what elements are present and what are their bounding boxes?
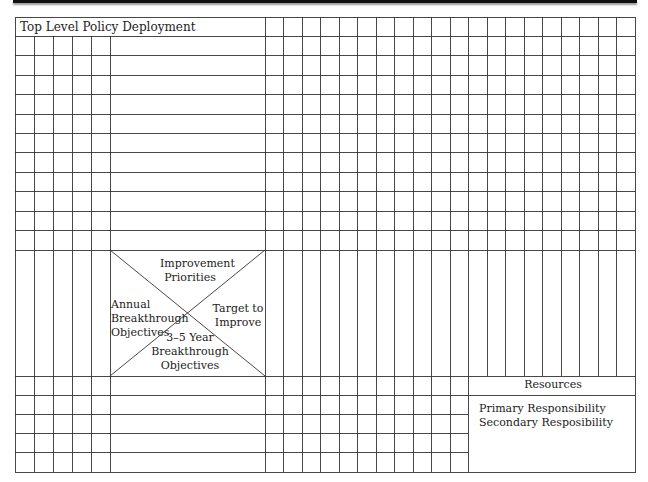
x-right-label: Target to Improve (208, 302, 268, 330)
x-top-line1: Improvement (160, 257, 220, 271)
x-top-line2: Priorities (160, 271, 220, 285)
x-right-line1: Target to (208, 302, 268, 316)
x-left-line1: Annual (111, 298, 189, 312)
x-bottom-line1: 3–5 Year (150, 331, 230, 345)
x-top-label: Improvement Priorities (160, 257, 220, 285)
legend-primary: Primary Responsibility (479, 402, 613, 416)
x-left-line2: Breakthrough (111, 312, 189, 326)
x-bottom-line2: Breakthrough (150, 345, 230, 359)
x-bottom-label: 3–5 Year Breakthrough Objectives (150, 331, 230, 373)
resources-header: Resources (470, 377, 636, 393)
x-right-line2: Improve (208, 316, 268, 330)
responsibility-legend: Primary Responsibility Secondary Resposi… (479, 402, 613, 430)
x-bottom-line3: Objectives (150, 359, 230, 373)
legend-secondary: Secondary Resposibility (479, 416, 613, 430)
form-title: Top Level Policy Deployment (20, 20, 195, 34)
